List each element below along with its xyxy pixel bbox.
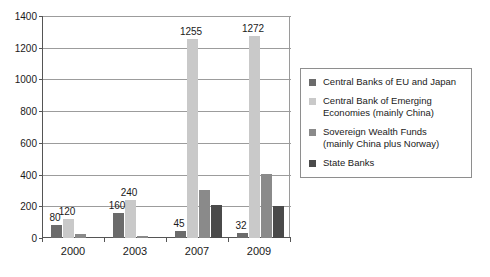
bar [273, 206, 284, 239]
bar [137, 236, 148, 238]
bar-value-label: 1272 [242, 23, 264, 34]
bar [113, 213, 124, 238]
bar-group [229, 16, 291, 238]
bars-layer [43, 16, 291, 238]
bar-value-label: 120 [59, 206, 76, 217]
x-axis-tick-label: 2000 [61, 245, 85, 257]
legend-label: Sovereign Wealth Funds (mainly China plu… [323, 126, 439, 150]
bar [211, 205, 222, 238]
legend-swatch-icon [309, 160, 316, 167]
x-axis-tick-label: 2009 [247, 245, 271, 257]
x-axis-tick-label: 2007 [185, 245, 209, 257]
bar [175, 231, 186, 238]
legend-item[interactable]: State Banks [309, 157, 465, 169]
x-axis-tick-mark [290, 238, 291, 242]
bar-chart: 0200400600800100012001400 20002003200720… [0, 0, 490, 277]
bar-value-label: 32 [235, 220, 246, 231]
x-axis-tick-mark [104, 238, 105, 242]
x-axis-tick-label: 2003 [123, 245, 147, 257]
bar-value-label: 240 [121, 187, 138, 198]
bar-group [43, 16, 105, 238]
bar-value-label: 1255 [180, 26, 202, 37]
bar-value-label: 45 [173, 218, 184, 229]
bar [75, 234, 86, 238]
legend-swatch-icon [309, 98, 316, 105]
bar [261, 174, 272, 238]
bar [63, 219, 74, 238]
bar [199, 190, 210, 238]
bar [187, 39, 198, 238]
x-axis-tick-mark [166, 238, 167, 242]
bar [249, 36, 260, 238]
legend: Central Banks of EU and JapanCentral Ban… [300, 68, 472, 178]
x-axis-tick-mark [42, 238, 43, 242]
bar [125, 200, 136, 238]
legend-item[interactable]: Central Bank of Emerging Economies (main… [309, 95, 465, 119]
legend-swatch-icon [309, 79, 316, 86]
plot-area: 0200400600800100012001400 [42, 16, 290, 238]
bar [51, 225, 62, 238]
bar [237, 233, 248, 238]
legend-label: Central Bank of Emerging Economies (main… [323, 95, 434, 119]
legend-label: State Banks [323, 157, 374, 169]
legend-item[interactable]: Sovereign Wealth Funds (mainly China plu… [309, 126, 465, 150]
bar-value-label: 160 [109, 200, 126, 211]
bar-group [167, 16, 229, 238]
legend-label: Central Banks of EU and Japan [323, 76, 456, 88]
legend-item[interactable]: Central Banks of EU and Japan [309, 76, 465, 88]
legend-swatch-icon [309, 129, 316, 136]
x-axis-tick-mark [228, 238, 229, 242]
